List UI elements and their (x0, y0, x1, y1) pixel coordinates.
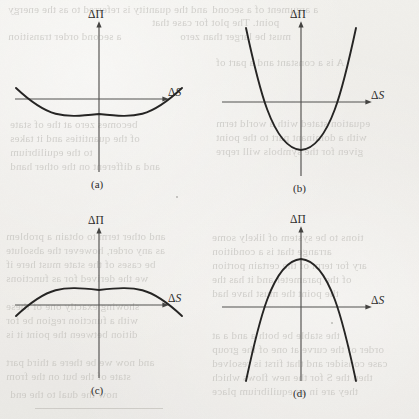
panel-d (222, 232, 366, 381)
panel-b (222, 27, 366, 176)
panel-c-x-axis-label: ΔS (168, 292, 181, 304)
entropy-symbol: S (378, 294, 384, 306)
plot-vector-layer (0, 0, 419, 419)
panel-d-x-axis-label: ΔS (371, 294, 384, 306)
panel-caption-c: (c) (91, 384, 103, 396)
panel-c-y-axis-label: ΔΠ (88, 214, 104, 226)
entropy-symbol: S (378, 89, 384, 101)
panel-d-y-axis-label: ΔΠ (290, 213, 306, 225)
panel-c (15, 233, 182, 378)
entropy-symbol: S (175, 86, 181, 98)
entropy-symbol: S (175, 292, 181, 304)
panel-caption-d: (d) (293, 387, 306, 399)
panel-a-x-axis-label: ΔS (168, 86, 181, 98)
panel-caption-b: (b) (293, 182, 306, 194)
panel-b-x-axis-label: ΔS (371, 89, 384, 101)
panel-b-y-axis-label: ΔΠ (290, 8, 306, 20)
figure-page: and the quantity is referred to as the e… (0, 0, 419, 419)
panel-a-y-axis-label: ΔΠ (88, 8, 104, 20)
panel-a (15, 27, 182, 172)
panel-caption-a: (a) (91, 178, 103, 190)
